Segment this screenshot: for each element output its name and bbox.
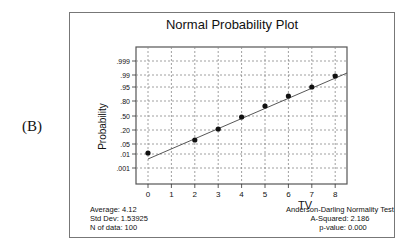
test-name: Anderson-Darling Normality Test bbox=[280, 205, 400, 214]
data-point bbox=[333, 73, 338, 78]
x-tick-label: 3 bbox=[216, 190, 221, 199]
y-tick-label: .05 bbox=[120, 141, 130, 148]
chart-frame: Normal Probability Plot Probability TV .… bbox=[69, 12, 395, 238]
average-stat: Average: 4.12 bbox=[90, 205, 148, 214]
y-tick-label: .80 bbox=[120, 98, 130, 105]
data-point bbox=[239, 114, 244, 119]
y-tick-label: .95 bbox=[120, 84, 130, 91]
normality-test-stats: Anderson-Darling Normality Test A-Square… bbox=[280, 205, 400, 232]
data-point bbox=[262, 103, 267, 108]
y-tick-label: .50 bbox=[120, 113, 130, 120]
y-tick-label: .999 bbox=[116, 58, 130, 65]
y-tick-label: .20 bbox=[120, 127, 130, 134]
data-point bbox=[286, 93, 291, 98]
x-tick-label: 4 bbox=[239, 190, 244, 199]
x-tick-label: 8 bbox=[333, 190, 338, 199]
data-point bbox=[145, 150, 150, 155]
data-point bbox=[216, 126, 221, 131]
data-point bbox=[309, 84, 314, 89]
summary-stats: Average: 4.12 Std Dev: 1.53925 N of data… bbox=[90, 205, 148, 232]
y-tick-label: .01 bbox=[120, 151, 130, 158]
x-tick-label: 0 bbox=[146, 190, 151, 199]
n-stat: N of data: 100 bbox=[90, 223, 148, 232]
x-tick-label: 7 bbox=[310, 190, 315, 199]
a-squared-stat: A-Squared: 2.186 bbox=[280, 214, 400, 223]
stddev-stat: Std Dev: 1.53925 bbox=[90, 214, 148, 223]
x-tick-label: 6 bbox=[286, 190, 291, 199]
p-value-stat: p-value: 0.000 bbox=[280, 223, 400, 232]
y-tick-label: .99 bbox=[120, 72, 130, 79]
x-tick-label: 5 bbox=[263, 190, 268, 199]
x-tick-label: 1 bbox=[169, 190, 174, 199]
panel-label: (B) bbox=[22, 118, 42, 135]
data-point bbox=[192, 137, 197, 142]
x-tick-label: 2 bbox=[193, 190, 198, 199]
y-tick-label: .001 bbox=[116, 165, 130, 172]
